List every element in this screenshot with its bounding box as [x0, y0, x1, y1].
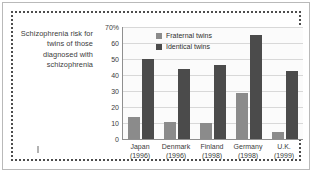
bar-group [272, 27, 298, 139]
bar-identical-twins-denmark [178, 69, 190, 139]
y-tick-label: 30 [97, 88, 119, 95]
bar-fraternal-twins-finland [200, 123, 212, 139]
x-tick-year: (1999) [274, 151, 294, 160]
x-tick-year: (1996) [130, 151, 150, 160]
legend-item-fraternal: Fraternal twins [156, 32, 212, 40]
page-artifact-mark [37, 146, 39, 153]
x-axis: Japan(1996)Denmark(1996)Finland(1998)Ger… [122, 142, 302, 166]
y-tick-label: 0 [97, 136, 119, 143]
chart-legend: Fraternal twins Identical twins [156, 32, 212, 53]
bar-group [128, 27, 154, 139]
bar-fraternal-twins-germany [236, 93, 248, 139]
x-tick-country: Japan [130, 142, 150, 151]
x-tick-label: Finland(1998) [201, 142, 224, 161]
legend-item-identical: Identical twins [156, 43, 212, 51]
plot-area: Fraternal twins Identical twins [122, 27, 303, 140]
y-tick-label: 50 [97, 56, 119, 63]
x-tick-year: (1996) [162, 151, 190, 160]
x-tick-country: Denmark [162, 142, 190, 151]
y-tick-label: 70% [97, 24, 119, 31]
x-tick-year: (1998) [201, 151, 224, 160]
x-tick-country: U.K. [274, 142, 294, 151]
x-tick-label: Germany(1998) [234, 142, 263, 161]
legend-label-fraternal: Fraternal twins [166, 32, 212, 40]
x-tick-label: Japan(1996) [130, 142, 150, 161]
y-tick-label: 10 [97, 120, 119, 127]
bar-identical-twins-germany [250, 35, 262, 139]
legend-swatch-identical-icon [156, 44, 162, 50]
figure-frame: Schizophrenia risk for twins of those di… [2, 2, 310, 170]
y-axis: 010203040506070% [97, 27, 119, 139]
x-tick-label: Denmark(1996) [162, 142, 190, 161]
bar-identical-twins-uk [286, 71, 298, 139]
legend-swatch-fraternal-icon [156, 33, 162, 39]
x-tick-country: Finland [201, 142, 224, 151]
bar-identical-twins-japan [142, 59, 154, 139]
bar-fraternal-twins-japan [128, 117, 140, 139]
bar-identical-twins-finland [214, 65, 226, 139]
x-tick-year: (1998) [234, 151, 263, 160]
bar-fraternal-twins-denmark [164, 122, 176, 139]
y-tick-label: 20 [97, 104, 119, 111]
bar-fraternal-twins-uk [272, 132, 284, 139]
bar-group [236, 27, 262, 139]
chart-caption: Schizophrenia risk for twins of those di… [15, 29, 93, 71]
x-tick-label: U.K.(1999) [274, 142, 294, 161]
y-tick-label: 60 [97, 40, 119, 47]
bars-layer [123, 27, 303, 139]
x-tick-country: Germany [234, 142, 263, 151]
bar-chart: 010203040506070% Fraternal twins Identic… [97, 27, 305, 167]
legend-label-identical: Identical twins [166, 43, 210, 51]
y-tick-label: 40 [97, 72, 119, 79]
